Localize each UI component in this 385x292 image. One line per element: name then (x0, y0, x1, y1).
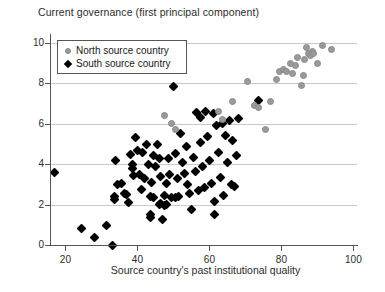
data-point-south (131, 133, 141, 143)
data-point-south (177, 157, 187, 167)
y-tick-label: 2 (38, 200, 44, 210)
data-point-south (230, 181, 240, 191)
data-point-north (244, 78, 251, 85)
data-point-south (102, 221, 112, 231)
data-point-north (161, 112, 168, 119)
legend-label-north: North source country (74, 45, 169, 56)
x-tick (353, 245, 354, 251)
x-axis-label: Source country's past institutional qual… (0, 264, 385, 276)
data-point-north (267, 98, 274, 105)
data-point-south (147, 177, 157, 187)
circle-marker-icon (62, 48, 74, 54)
y-tick (45, 245, 51, 246)
x-tick (137, 245, 138, 251)
legend-item-south: South source country (62, 57, 181, 70)
chart-legend: North source country South source countr… (57, 40, 187, 74)
data-point-south (188, 152, 198, 162)
scatter-chart-figure: Current governance (first principal comp… (0, 0, 385, 292)
y-tick-label: 8 (38, 78, 44, 88)
data-point-south (123, 198, 133, 208)
data-point-south (161, 178, 171, 188)
data-point-south (231, 150, 241, 160)
y-tick-label: 4 (38, 159, 44, 169)
data-point-north (229, 98, 236, 105)
y-tick (45, 43, 51, 44)
data-point-north (255, 104, 262, 111)
data-point-north (328, 46, 335, 53)
data-point-north (215, 108, 222, 115)
y-tick-label: 10 (33, 38, 44, 48)
y-axis-line (50, 34, 51, 246)
data-point-south (210, 210, 220, 220)
y-tick-label: 6 (38, 119, 44, 129)
diamond-marker-icon (62, 61, 74, 67)
data-point-north (298, 82, 305, 89)
gridline (51, 83, 357, 84)
data-point-north (273, 76, 280, 83)
legend-item-north: North source country (62, 44, 181, 57)
y-tick (45, 164, 51, 165)
data-point-north (262, 126, 269, 133)
gridline (51, 205, 357, 206)
y-tick (45, 83, 51, 84)
data-point-south (77, 224, 87, 234)
gridline (51, 124, 357, 125)
data-point-south (152, 139, 162, 149)
y-tick-label: 0 (38, 240, 44, 250)
data-point-south (219, 191, 229, 201)
x-axis-line (50, 245, 358, 246)
legend-label-south: South source country (74, 58, 171, 69)
data-point-south (233, 114, 243, 124)
data-point-south (183, 179, 193, 189)
x-tick (281, 245, 282, 251)
data-point-south (89, 233, 99, 243)
data-point-south (181, 141, 191, 151)
data-point-north (310, 50, 317, 57)
x-tick (65, 245, 66, 251)
data-point-south (215, 172, 225, 182)
y-tick (45, 205, 51, 206)
data-point-north (319, 42, 326, 49)
data-point-north (292, 62, 299, 69)
data-point-north (300, 72, 307, 79)
data-point-north (314, 60, 321, 67)
data-point-south (158, 215, 168, 225)
data-point-south (50, 167, 60, 177)
data-point-south (222, 157, 232, 167)
data-point-south (186, 205, 196, 215)
data-point-north (219, 116, 226, 123)
data-point-north (294, 54, 301, 61)
x-tick (209, 245, 210, 251)
data-point-south (213, 147, 223, 157)
data-point-north (289, 70, 296, 77)
y-tick (45, 124, 51, 125)
chart-title: Current governance (first principal comp… (38, 6, 259, 18)
data-point-south (136, 185, 146, 195)
